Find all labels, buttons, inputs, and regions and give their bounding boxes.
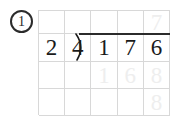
- grid-cell-r1c4[interactable]: [118, 11, 144, 34]
- grid-cell-r3c5-ghost[interactable]: 8: [144, 62, 170, 89]
- grid-cell-r2c2-divisor-ones[interactable]: 4: [65, 34, 91, 62]
- worksheet-canvas: 1 7 2 4 1 7 6 1 6 8 8: [0, 0, 175, 121]
- grid-cell-r2c3-dividend-hundreds[interactable]: 1: [91, 34, 117, 62]
- grid-cell-r2c4-dividend-tens[interactable]: 7: [118, 34, 144, 62]
- long-division-work-grid: 7 2 4 1 7 6 1 6 8 8: [38, 10, 170, 115]
- grid-cell-r4c1[interactable]: [39, 89, 65, 116]
- division-vinculum-bar: [79, 33, 170, 35]
- grid-cell-r4c4[interactable]: [118, 89, 144, 116]
- problem-number-badge: 1: [10, 10, 33, 33]
- grid-cell-r2c5-dividend-ones[interactable]: 6: [144, 34, 170, 62]
- problem-number-label: 1: [18, 15, 25, 29]
- grid-cell-r1c5-quotient-ghost[interactable]: 7: [144, 11, 170, 34]
- grid-cell-r1c1[interactable]: [39, 11, 65, 34]
- grid-cell-r4c3[interactable]: [91, 89, 117, 116]
- grid-cell-r3c4-ghost[interactable]: 6: [118, 62, 144, 89]
- grid-cell-r3c1[interactable]: [39, 62, 65, 89]
- grid-cell-r4c5-ghost[interactable]: 8: [144, 89, 170, 116]
- grid-cell-r1c3[interactable]: [91, 11, 117, 34]
- grid-cell-r4c2[interactable]: [65, 89, 91, 116]
- grid-cell-r2c1-divisor-tens[interactable]: 2: [39, 34, 65, 62]
- grid-cell-r3c3-ghost[interactable]: 1: [91, 62, 117, 89]
- grid-cell-r1c2[interactable]: [65, 11, 91, 34]
- grid-cell-r3c2[interactable]: [65, 62, 91, 89]
